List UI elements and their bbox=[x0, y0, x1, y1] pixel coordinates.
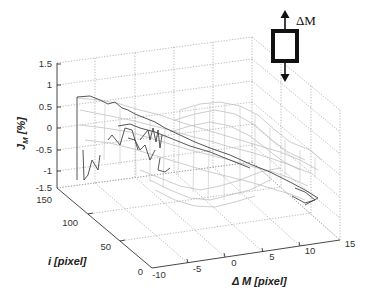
deltaM-tick: -10 bbox=[152, 269, 166, 280]
z-tick: -0.5 bbox=[36, 144, 52, 155]
inset-label: ΔM bbox=[296, 13, 316, 28]
z-tick: 0 bbox=[47, 122, 52, 133]
deltaM-tick-labels: -10 -5 0 5 10 15 bbox=[152, 238, 355, 280]
i-tick: 150 bbox=[36, 194, 52, 205]
deltaM-tick: 10 bbox=[305, 245, 316, 256]
grid-lines bbox=[57, 37, 340, 263]
i-tick: 50 bbox=[100, 241, 111, 252]
z-tick: 0.5 bbox=[39, 101, 52, 112]
i-axis-label: i [pixel] bbox=[48, 255, 87, 267]
deltaM-tick: 5 bbox=[269, 251, 274, 262]
deltaM-axis-label: Δ M [pixel] bbox=[231, 275, 287, 287]
z-tick: 1.5 bbox=[39, 58, 52, 69]
deltaM-tick: 15 bbox=[345, 238, 356, 249]
z-tick: -1 bbox=[44, 165, 52, 176]
surface-plot: 1.5 1 0.5 0 -0.5 -1 -1.5 150 100 50 0 -1… bbox=[0, 0, 365, 295]
surface-mesh bbox=[77, 96, 322, 207]
deltaM-tick: -5 bbox=[193, 263, 201, 274]
deltaM-tick: 0 bbox=[231, 257, 236, 268]
i-tick: 0 bbox=[138, 266, 143, 277]
z-tick-labels: 1.5 1 0.5 0 -0.5 -1 -1.5 bbox=[36, 58, 52, 193]
z-tick: 1 bbox=[47, 79, 52, 90]
z-axis-label: JM [%] bbox=[15, 117, 30, 150]
i-tick: 100 bbox=[62, 217, 78, 228]
z-tick: -1.5 bbox=[36, 182, 52, 193]
